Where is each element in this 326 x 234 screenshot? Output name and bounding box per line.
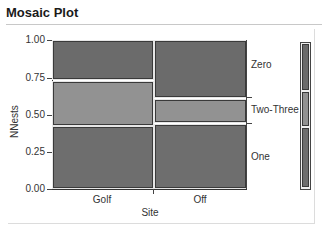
- cell-golf-zero[interactable]: [53, 41, 153, 79]
- title-divider: [6, 24, 322, 25]
- ytick-label: 0.25: [15, 146, 45, 157]
- cell-golf-one[interactable]: [53, 127, 153, 188]
- right-label-one: One: [251, 151, 270, 162]
- xtick-label-off: Off: [170, 194, 230, 205]
- ytick-label: 0.00: [15, 183, 45, 194]
- y-axis-title: NNests: [9, 105, 20, 138]
- column-golf: [53, 40, 153, 189]
- right-tick: [247, 123, 252, 124]
- cell-off-zero[interactable]: [155, 41, 246, 97]
- legend-swatch-zero[interactable]: [302, 44, 309, 90]
- legend-color-bar[interactable]: [300, 42, 311, 190]
- xtick: [153, 189, 154, 194]
- panel-title: Mosaic Plot: [6, 5, 78, 20]
- right-label-two-three: Two-Three: [251, 104, 299, 115]
- right-label-zero: Zero: [251, 59, 272, 70]
- legend-swatch-two-three[interactable]: [302, 92, 309, 126]
- legend-swatch-one[interactable]: [302, 128, 309, 187]
- mosaic-plot-area: [52, 40, 247, 190]
- xtick-label-golf: Golf: [72, 194, 132, 205]
- cell-off-two-three[interactable]: [155, 100, 246, 122]
- ytick-label: 0.75: [15, 72, 45, 83]
- cell-off-one[interactable]: [155, 125, 246, 188]
- ytick-label: 1.00: [15, 34, 45, 45]
- right-tick: [247, 97, 252, 98]
- right-axis: [246, 40, 247, 189]
- cell-golf-two-three[interactable]: [53, 82, 153, 125]
- column-off: [155, 40, 246, 189]
- x-axis-title: Site: [120, 207, 180, 218]
